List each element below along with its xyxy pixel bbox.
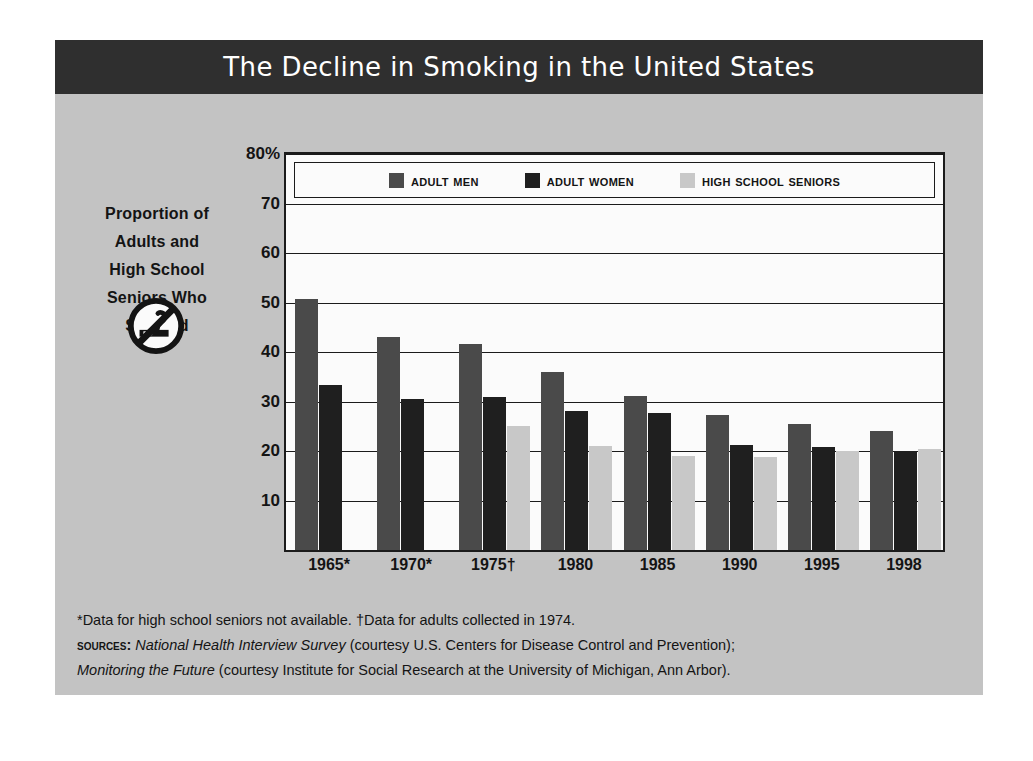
y-axis-tick-label: 20 <box>224 441 280 461</box>
x-axis-tick-label: 1998 <box>886 556 922 574</box>
bar-adult-men <box>788 424 811 550</box>
sources-label: Sources: <box>77 637 131 653</box>
x-axis-tick-label: 1990 <box>722 556 758 574</box>
legend-item-adult-women: Adult Women <box>525 172 634 189</box>
bar-adult-men <box>459 344 482 550</box>
bar-adult-women <box>730 445 753 550</box>
bar-adult-men <box>377 337 400 550</box>
y-axis-tick-label: 70 <box>224 194 280 214</box>
y-axis-tick-labels: 1020304050607080% <box>220 152 280 552</box>
bar-adult-men <box>295 299 318 550</box>
y-axis-tick-label: 40 <box>224 342 280 362</box>
y-axis-tick-label: 50 <box>224 293 280 313</box>
legend-item-high-school-seniors: High School Seniors <box>680 172 840 189</box>
bar-adult-women <box>401 399 424 550</box>
y-axis-tick-label: 10 <box>224 491 280 511</box>
x-axis-tick-label: 1975† <box>471 556 516 574</box>
page-title: The Decline in Smoking in the United Sta… <box>223 52 815 82</box>
chart-title-bar: The Decline in Smoking in the United Sta… <box>55 40 983 94</box>
y-axis-tick-label: 30 <box>224 392 280 412</box>
legend-label-high-school-seniors: High School Seniors <box>702 172 840 189</box>
source-title-nhis: National Health Interview Survey <box>135 637 345 653</box>
legend-label-adult-men: Adult Men <box>411 172 479 189</box>
y-axis-tick-label: 60 <box>224 243 280 263</box>
chart-figure: The Decline in Smoking in the United Sta… <box>55 40 983 695</box>
legend-swatch-adult-women <box>525 173 540 188</box>
footnote-sources-2: Monitoring the Future (courtesy Institut… <box>77 658 963 683</box>
bar-high-school-seniors <box>507 426 530 550</box>
bar-adult-men <box>624 396 647 550</box>
bar-high-school-seniors <box>589 446 612 550</box>
legend-item-adult-men: Adult Men <box>389 172 479 189</box>
x-axis-tick-label: 1985 <box>640 556 676 574</box>
bar-high-school-seniors <box>672 456 695 550</box>
source-detail-nhis: (courtesy U.S. Centers for Disease Contr… <box>350 637 735 653</box>
x-axis-tick-label: 1965* <box>308 556 350 574</box>
bars-layer <box>286 154 943 550</box>
chart-footnotes: *Data for high school seniors not availa… <box>77 608 963 683</box>
legend-swatch-high-school-seniors <box>680 173 695 188</box>
footnote-sources-1: Sources: National Health Interview Surve… <box>77 633 963 658</box>
plot-area: Adult Men Adult Women High School Senior… <box>284 152 945 552</box>
bar-high-school-seniors <box>918 449 941 550</box>
bar-adult-men <box>870 431 893 550</box>
bar-adult-women <box>894 451 917 550</box>
bar-adult-women <box>812 447 835 550</box>
bar-adult-women <box>565 411 588 550</box>
x-axis-tick-label: 1995 <box>804 556 840 574</box>
source-title-mtf: Monitoring the Future <box>77 662 215 678</box>
bar-adult-women <box>483 397 506 550</box>
bar-high-school-seniors <box>754 457 777 550</box>
x-axis-tick-label: 1980 <box>558 556 594 574</box>
bar-high-school-seniors <box>836 451 859 550</box>
bar-adult-women <box>648 413 671 550</box>
legend-label-adult-women: Adult Women <box>547 172 634 189</box>
legend-swatch-adult-men <box>389 173 404 188</box>
x-axis-tick-labels: 1965*1970*1975†19801985199019951998 <box>284 556 945 586</box>
x-axis-tick-label: 1970* <box>390 556 432 574</box>
bar-adult-men <box>706 415 729 550</box>
y-axis-caption-line: High School <box>73 256 241 284</box>
chart-legend: Adult Men Adult Women High School Senior… <box>294 162 935 198</box>
no-smoking-icon <box>125 295 187 357</box>
footnote-availability: *Data for high school seniors not availa… <box>77 608 963 633</box>
y-axis-caption-line: Proportion of <box>73 200 241 228</box>
bar-adult-men <box>541 372 564 550</box>
source-detail-mtf: (courtesy Institute for Social Research … <box>219 662 731 678</box>
y-axis-caption-line: Adults and <box>73 228 241 256</box>
y-axis-tick-label: 80% <box>224 144 280 164</box>
bar-adult-women <box>319 385 342 550</box>
